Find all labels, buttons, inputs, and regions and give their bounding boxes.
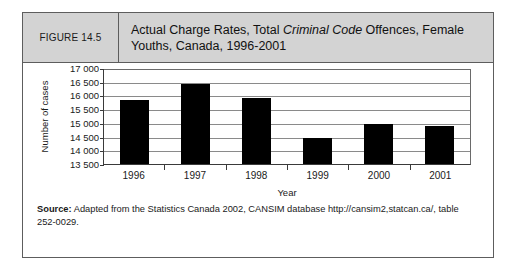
figure-title-cell: Actual Charge Rates, Total Criminal Code… <box>119 13 493 62</box>
source-note: Source: Adapted from the Statistics Cana… <box>23 203 493 229</box>
chart-body: Number of cases 17 00016 50016 00015 500… <box>23 63 493 203</box>
y-axis-tick-label: 14 000 <box>70 147 99 157</box>
y-axis-tick-mark <box>100 151 104 152</box>
figure-title-part1: Actual Charge Rates, Total <box>131 23 283 37</box>
figure-number-label: FIGURE 14.5 <box>39 32 101 43</box>
figure-number-cell: FIGURE 14.5 <box>23 13 119 62</box>
bar-slot <box>287 69 348 164</box>
y-axis-tick-label: 15 500 <box>70 105 99 115</box>
source-text: Adapted from the Statistics Canada 2002,… <box>37 204 459 227</box>
x-axis-tick-label: 1999 <box>287 170 348 181</box>
bar-slot <box>104 69 165 164</box>
y-axis-tick-label: 17 000 <box>70 64 99 74</box>
x-axis-tick-label: 1996 <box>103 170 164 181</box>
bar-1996 <box>120 100 149 164</box>
figure-container: FIGURE 14.5 Actual Charge Rates, Total C… <box>22 12 494 258</box>
x-axis-tick-labels: 199619971998199920002001 <box>103 170 471 181</box>
bar-slot <box>348 69 409 164</box>
y-axis-tick-label: 16 000 <box>70 92 99 102</box>
x-axis-tick-label: 2001 <box>410 170 471 181</box>
y-axis-tick-mark <box>100 96 104 97</box>
bar-slot <box>409 69 470 164</box>
y-axis-tick-mark <box>100 83 104 84</box>
bar-1998 <box>242 98 271 164</box>
y-axis-tick-mark <box>100 69 104 70</box>
bars-layer <box>104 69 470 164</box>
x-axis-tick-label: 1998 <box>226 170 287 181</box>
y-axis-tick-label: 15 000 <box>70 119 99 129</box>
figure-title: Actual Charge Rates, Total Criminal Code… <box>131 22 483 54</box>
x-axis-tick-label: 1997 <box>164 170 225 181</box>
y-axis-tick-label: 16 500 <box>70 78 99 88</box>
bar-slot <box>165 69 226 164</box>
bar-2000 <box>364 124 393 164</box>
bar-1997 <box>181 84 210 164</box>
bar-slot <box>226 69 287 164</box>
bar-2001 <box>425 126 454 164</box>
y-axis-tick-mark <box>100 124 104 125</box>
y-axis-tick-mark <box>100 138 104 139</box>
y-axis-tick-labels: 17 00016 50016 00015 50015 00014 50014 0… <box>53 69 99 165</box>
figure-title-italic: Criminal Code <box>283 23 362 37</box>
y-axis-tick-label: 13 500 <box>70 160 99 170</box>
x-axis-title: Year <box>103 187 471 198</box>
y-axis-tick-label: 14 500 <box>70 133 99 143</box>
bar-1999 <box>303 138 332 164</box>
x-axis-tick-label: 2000 <box>348 170 409 181</box>
figure-header: FIGURE 14.5 Actual Charge Rates, Total C… <box>23 13 493 63</box>
plot-area <box>103 69 471 165</box>
y-axis-tick-mark <box>100 110 104 111</box>
y-axis-title: Number of cases <box>39 70 50 164</box>
source-label: Source: <box>37 204 72 214</box>
